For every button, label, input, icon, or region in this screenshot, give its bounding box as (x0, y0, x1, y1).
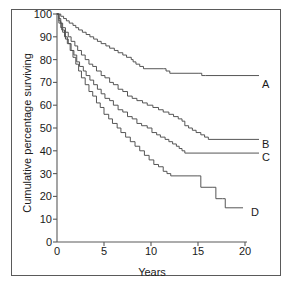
survival-curve-d (57, 14, 229, 208)
survival-curves (57, 14, 245, 208)
survival-curve-b (57, 14, 245, 139)
plot-canvas (0, 0, 292, 288)
axes (53, 13, 247, 246)
survival-chart-figure: Cumulative percentage surviving Years 10… (0, 0, 292, 288)
survival-curve-a (57, 14, 245, 76)
label-leader-lines (229, 76, 259, 208)
